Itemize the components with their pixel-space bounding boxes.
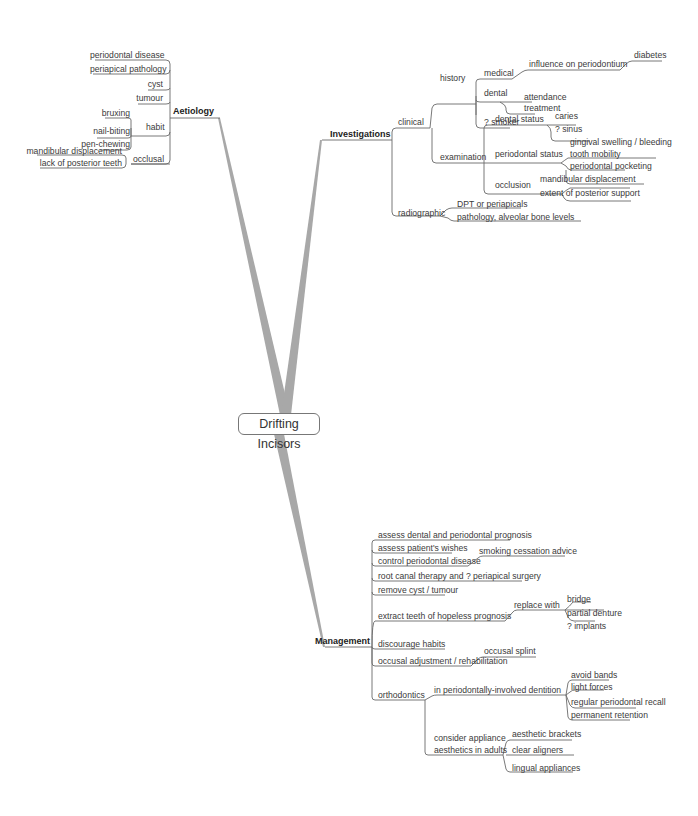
mgmt-extract-teeth[interactable]: extract teeth of hopeless prognosis bbox=[378, 611, 511, 621]
mind-map-connectors bbox=[0, 0, 698, 816]
clinical-examination[interactable]: examination bbox=[440, 152, 486, 162]
trunk-management bbox=[274, 434, 325, 647]
aesthetics-clear-aligners[interactable]: clear aligners bbox=[512, 745, 563, 755]
aesthetics-brackets[interactable]: aesthetic brackets bbox=[512, 729, 581, 739]
perio-permanent-retention[interactable]: permanent retention bbox=[571, 710, 648, 720]
medical-diabetes[interactable]: diabetes bbox=[634, 50, 667, 60]
clinical-history[interactable]: history bbox=[440, 73, 465, 83]
branch-aetiology[interactable]: Aetiology bbox=[173, 106, 214, 116]
periodontal-gingival-swelling[interactable]: gingival swelling / bleeding bbox=[570, 137, 672, 147]
mgmt-orthodontics[interactable]: orthodontics bbox=[378, 690, 425, 700]
occlusion-mandibular-displacement[interactable]: mandibular displacement bbox=[540, 174, 636, 184]
habit-nail-biting[interactable]: nail-biting bbox=[80, 126, 130, 136]
investigations-radiographic[interactable]: radiographic bbox=[398, 208, 445, 218]
perio-regular-recall[interactable]: regular periodontal recall bbox=[571, 697, 666, 707]
examination-occlusion[interactable]: occlusion bbox=[495, 180, 531, 190]
mgmt-replace-with[interactable]: replace with bbox=[514, 600, 560, 610]
dental-status-caries[interactable]: caries bbox=[555, 111, 578, 121]
mgmt-smoking-cessation[interactable]: smoking cessation advice bbox=[479, 546, 577, 556]
trunk-investigations bbox=[281, 140, 322, 415]
trunk-aetiology bbox=[218, 118, 290, 415]
mgmt-remove-cyst[interactable]: remove cyst / tumour bbox=[378, 585, 458, 595]
examination-dental-status[interactable]: dental status bbox=[495, 114, 544, 124]
occlusal-mandibular-displacement[interactable]: mandibular displacement bbox=[20, 146, 122, 156]
mgmt-root-canal[interactable]: root canal therapy and ? periapical surg… bbox=[378, 571, 541, 581]
mgmt-assess-prognosis[interactable]: assess dental and periodontal prognosis bbox=[378, 530, 532, 540]
replace-partial-denture[interactable]: partial denture bbox=[567, 608, 622, 618]
central-topic[interactable]: Drifting Incisors bbox=[238, 413, 320, 435]
investigations-clinical[interactable]: clinical bbox=[398, 117, 424, 127]
radiographic-pathology[interactable]: pathology, alveolar bone levels bbox=[457, 212, 574, 222]
radiographic-dpt[interactable]: DPT or periapicals bbox=[457, 199, 528, 209]
aetiology-cyst[interactable]: cyst bbox=[130, 79, 163, 89]
aetiology-occlusal[interactable]: occlusal bbox=[133, 154, 164, 164]
replace-implants[interactable]: ? implants bbox=[567, 621, 606, 631]
habit-bruxing[interactable]: bruxing bbox=[90, 108, 130, 118]
perio-light-forces[interactable]: light forces bbox=[571, 682, 613, 692]
ortho-aesthetics-line1[interactable]: consider appliance bbox=[434, 733, 506, 743]
aetiology-periapical-pathology[interactable]: periapical pathology bbox=[90, 64, 163, 74]
ortho-aesthetics-line2[interactable]: aesthetics in adults bbox=[434, 745, 507, 755]
mgmt-occlusal-adjustment[interactable]: occusal adjustment / rehabilitation bbox=[378, 656, 507, 666]
dental-attendance[interactable]: attendance bbox=[524, 92, 567, 102]
aetiology-periodontal-disease[interactable]: periodontal disease bbox=[90, 50, 163, 60]
aetiology-habit[interactable]: habit bbox=[146, 122, 165, 132]
medical-influence-periodontium[interactable]: influence on periodontium bbox=[529, 59, 627, 69]
mgmt-occlusal-splint[interactable]: occusal splint bbox=[484, 646, 536, 656]
aetiology-tumour[interactable]: tumour bbox=[120, 93, 163, 103]
mgmt-control-periodontal[interactable]: control periodontal disease bbox=[378, 556, 481, 566]
ortho-periodontally-involved[interactable]: in periodontally-involved dentition bbox=[434, 685, 561, 695]
mgmt-assess-wishes[interactable]: assess patient's wishes bbox=[378, 543, 468, 553]
mgmt-discourage-habits[interactable]: discourage habits bbox=[378, 639, 445, 649]
periodontal-pocketing[interactable]: periodontal pocketing bbox=[570, 161, 652, 171]
history-dental[interactable]: dental bbox=[484, 88, 507, 98]
examination-periodontal-status[interactable]: periodontal status bbox=[495, 149, 563, 159]
occlusal-lack-posterior-teeth[interactable]: lack of posterior teeth bbox=[30, 158, 122, 168]
branch-investigations[interactable]: Investigations bbox=[330, 129, 391, 139]
branch-management[interactable]: Management bbox=[315, 636, 370, 646]
occlusion-posterior-support[interactable]: extent of posterior support bbox=[540, 188, 640, 198]
periodontal-tooth-mobility[interactable]: tooth mobility bbox=[570, 149, 621, 159]
perio-avoid-bands[interactable]: avoid bands bbox=[571, 670, 617, 680]
replace-bridge[interactable]: bridge bbox=[567, 594, 591, 604]
aesthetics-lingual[interactable]: lingual appliances bbox=[512, 763, 580, 773]
history-medical[interactable]: medical bbox=[484, 68, 514, 78]
dental-status-sinus[interactable]: ? sinus bbox=[555, 124, 582, 134]
